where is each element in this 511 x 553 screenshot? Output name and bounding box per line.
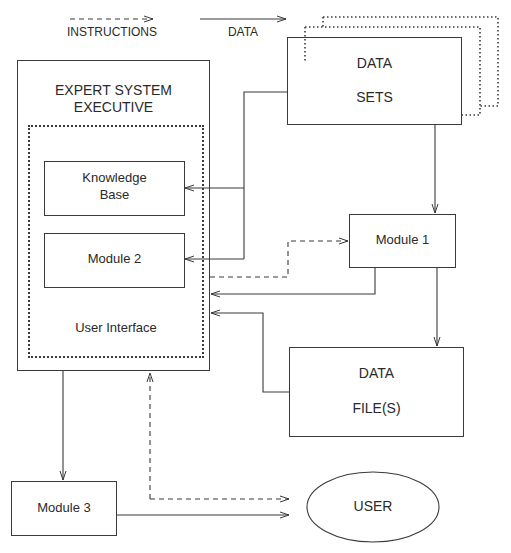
data-files-line1: DATA [289,365,464,381]
executive-title-line2: EXECUTIVE [17,99,210,115]
data-sets-line2: SETS [287,89,462,105]
knowledge-base-line1: Knowledge [44,170,185,185]
edge-datasets-to-modules [244,92,287,259]
data-sets-line1: DATA [287,55,462,71]
data-files-line2: FILE(S) [289,400,464,416]
data-files-box[interactable] [289,347,464,437]
edge-module1-to-executive [211,267,375,294]
module1-label: Module 1 [349,232,456,247]
executive-title-line1: EXPERT SYSTEM [17,82,210,98]
legend-data-label: DATA [218,25,268,39]
user-label[interactable]: USER [307,498,439,514]
edge-datafiles-to-executive [211,313,289,392]
knowledge-base-line2: Base [44,187,185,202]
legend-instructions-label: INSTRUCTIONS [62,25,162,39]
user-interface-label: User Interface [28,320,204,335]
module3-label: Module 3 [11,500,117,515]
module2-label: Module 2 [44,251,185,266]
data-sets-box[interactable] [287,37,462,125]
